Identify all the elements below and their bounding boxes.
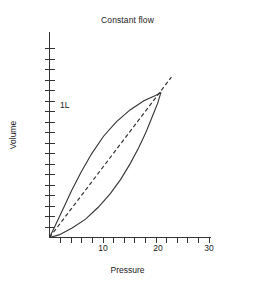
x-axis bbox=[50, 238, 212, 243]
x-axis-ticks bbox=[61, 238, 210, 243]
pressure-volume-chart: Constant flow Volume Pressure 1L 10 20 3… bbox=[0, 0, 255, 289]
plot-area bbox=[0, 0, 255, 289]
y-axis bbox=[45, 32, 55, 238]
series-compliance-line bbox=[50, 77, 172, 237]
data-series-group bbox=[50, 77, 172, 237]
